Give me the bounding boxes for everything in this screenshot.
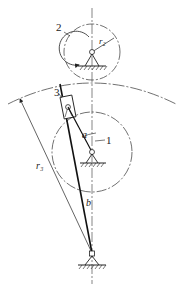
gear-2-support (78, 50, 107, 71)
label-r3: r₃ (36, 161, 43, 171)
label-link-1: 1 (106, 135, 112, 146)
label-b: b (86, 198, 91, 208)
radius-r3-line (20, 99, 92, 253)
label-a: a (82, 130, 87, 140)
rotation-arrow-2 (59, 31, 89, 65)
crank-1-support (80, 150, 106, 168)
label-gear-2: 2 (56, 22, 62, 33)
mechanism-diagram (0, 0, 179, 284)
label-r2: r₂ (99, 37, 106, 46)
label-slider-3: 3 (54, 87, 60, 98)
